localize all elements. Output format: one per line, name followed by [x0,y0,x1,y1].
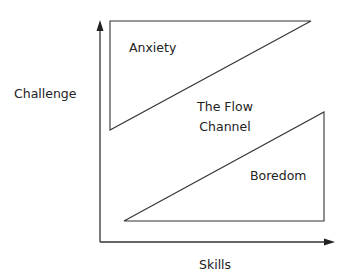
anxiety-label: Anxiety [129,40,176,55]
y-axis-arrowhead [97,20,104,31]
flow-channel-label-line2: Channel [190,119,260,134]
x-axis-arrowhead [324,239,335,246]
flow-channel-label-line1: The Flow [190,99,260,114]
x-axis-label: Skills [199,257,231,272]
y-axis-label: Challenge [14,86,77,101]
boredom-label: Boredom [250,168,307,183]
